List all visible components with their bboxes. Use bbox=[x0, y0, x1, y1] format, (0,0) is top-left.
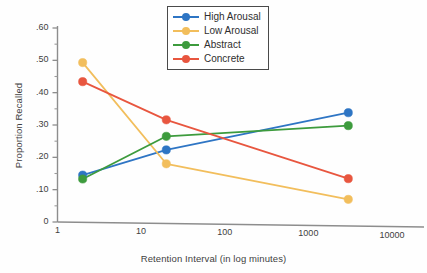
legend-swatch-icon bbox=[173, 25, 199, 37]
legend-label: Low Arousal bbox=[204, 25, 258, 37]
legend-marker-dot-icon bbox=[182, 41, 190, 49]
legend-label: High Arousal bbox=[204, 11, 261, 23]
y-tick-label: .20 bbox=[23, 151, 49, 161]
legend-marker-dot-icon bbox=[182, 27, 190, 35]
chart-figure: .60.50.40.30.20.100 110100100010000 Rete… bbox=[0, 0, 427, 273]
legend-marker-dot-icon bbox=[182, 55, 190, 63]
x-tick-label: 100 bbox=[205, 227, 245, 237]
legend-marker-dot-icon bbox=[182, 13, 190, 21]
legend-swatch-icon bbox=[173, 11, 199, 23]
legend-swatch-icon bbox=[173, 53, 199, 65]
chart-legend: High ArousalLow ArousalAbstractConcrete bbox=[167, 6, 269, 70]
x-tick-label: 10 bbox=[121, 226, 161, 236]
legend-label: Abstract bbox=[204, 39, 241, 51]
y-axis-title: Proportion Recalled bbox=[13, 56, 24, 196]
x-tick-label: 10000 bbox=[372, 230, 412, 240]
legend-item: Low Arousal bbox=[173, 24, 261, 38]
x-tick-label: 1000 bbox=[288, 228, 328, 238]
y-tick-label: .60 bbox=[23, 22, 49, 32]
y-tick-label: .10 bbox=[23, 184, 49, 194]
series-lines bbox=[83, 63, 349, 200]
legend-item: Abstract bbox=[173, 38, 261, 52]
y-tick-label: .50 bbox=[23, 54, 49, 64]
legend-label: Concrete bbox=[204, 53, 245, 65]
legend-item: High Arousal bbox=[173, 10, 261, 24]
legend-item: Concrete bbox=[173, 52, 261, 66]
x-axis-title: Retention Interval (in log minutes) bbox=[0, 253, 427, 264]
y-tick-label: .30 bbox=[23, 119, 49, 129]
x-tick-label: 1 bbox=[38, 225, 78, 235]
y-tick-label: .40 bbox=[23, 87, 49, 97]
legend-swatch-icon bbox=[173, 39, 199, 51]
tick-marks bbox=[53, 28, 58, 222]
series-points bbox=[79, 58, 353, 203]
